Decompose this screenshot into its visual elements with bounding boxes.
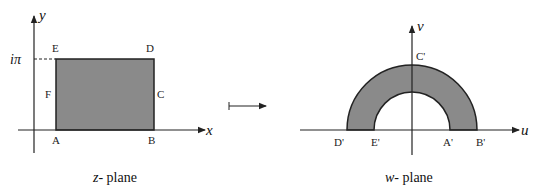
u-axis-label: u — [521, 122, 529, 138]
point-label-d-prime: D' — [334, 136, 344, 148]
point-label-e-prime: E' — [371, 136, 380, 148]
point-label-c: C — [157, 88, 164, 100]
i-pi-tick-label: iπ — [10, 52, 22, 67]
z-plane-caption: z- plane — [92, 170, 137, 185]
w-plane-caption: w- plane — [385, 170, 433, 185]
maps-to-arrow-icon — [229, 102, 266, 110]
point-label-b: B — [148, 134, 155, 146]
z-plane-rectangle-region — [56, 59, 154, 130]
point-label-a-prime: A' — [443, 136, 453, 148]
z-caption-text: - plane — [98, 170, 136, 185]
v-axis-label: v — [417, 18, 424, 34]
y-axis-label: y — [37, 7, 46, 23]
x-axis-label: x — [205, 122, 213, 138]
z-plane-diagram: x y iπ E D F C A B z- plane — [10, 7, 213, 185]
point-label-c-prime: C' — [416, 50, 425, 62]
w-caption-text: - plane — [394, 170, 432, 185]
point-label-e: E — [52, 42, 59, 54]
point-label-a: A — [52, 134, 60, 146]
point-label-f: F — [45, 88, 51, 100]
point-label-b-prime: B' — [476, 136, 485, 148]
w-plane-diagram: u v C' D' E' A' B' w- plane — [300, 18, 529, 185]
point-label-d: D — [146, 42, 154, 54]
